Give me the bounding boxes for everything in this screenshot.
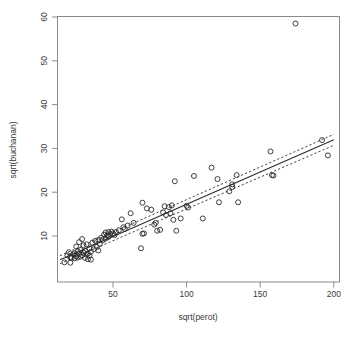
- data-point: [234, 173, 239, 178]
- x-axis-ticks: [113, 282, 334, 288]
- y-tick-label-60: 60: [39, 12, 49, 22]
- y-tick-label-20: 20: [39, 187, 49, 197]
- data-point: [140, 200, 145, 205]
- x-tick-label-100: 100: [180, 289, 194, 299]
- x-tick-label-150: 150: [253, 289, 267, 299]
- y-axis-title: sqrt(buchanan): [8, 121, 18, 178]
- x-axis-tick-labels: 50 100 150 200: [108, 289, 341, 299]
- data-point: [215, 177, 220, 182]
- data-point: [80, 237, 85, 242]
- confidence-band-upper: [60, 134, 334, 255]
- data-point: [236, 200, 241, 205]
- y-tick-label-30: 30: [39, 143, 49, 153]
- data-point: [200, 216, 205, 221]
- data-point: [174, 228, 179, 233]
- data-point: [178, 216, 183, 221]
- data-point: [268, 149, 273, 154]
- y-tick-label-40: 40: [39, 100, 49, 110]
- plot-canvas: 60 50 40 30 20 10 50 100 150 200 sqrt(pe…: [0, 0, 361, 337]
- data-point: [138, 246, 143, 251]
- data-point: [216, 200, 221, 205]
- data-point: [158, 227, 163, 232]
- data-point: [77, 240, 82, 245]
- data-point: [62, 260, 67, 265]
- data-points-layer: [62, 21, 330, 265]
- x-tick-label-200: 200: [327, 289, 341, 299]
- data-point: [172, 179, 177, 184]
- data-point: [128, 211, 133, 216]
- data-point: [209, 165, 214, 170]
- scatter-plot-svg: 60 50 40 30 20 10 50 100 150 200 sqrt(pe…: [0, 0, 361, 337]
- data-point: [68, 260, 73, 265]
- data-point: [325, 153, 330, 158]
- y-tick-label-10: 10: [39, 231, 49, 241]
- x-tick-label-50: 50: [108, 289, 118, 299]
- data-point: [119, 217, 124, 222]
- data-point: [293, 21, 298, 26]
- y-axis-ticks: [52, 17, 58, 236]
- data-point: [125, 223, 130, 228]
- confidence-bands-layer: [60, 134, 334, 263]
- data-point: [171, 217, 176, 222]
- data-point: [191, 173, 196, 178]
- y-tick-label-50: 50: [39, 56, 49, 66]
- x-axis-title: sqrt(perot): [178, 312, 217, 322]
- data-point: [149, 207, 154, 212]
- y-axis-tick-labels: 60 50 40 30 20 10: [39, 12, 49, 241]
